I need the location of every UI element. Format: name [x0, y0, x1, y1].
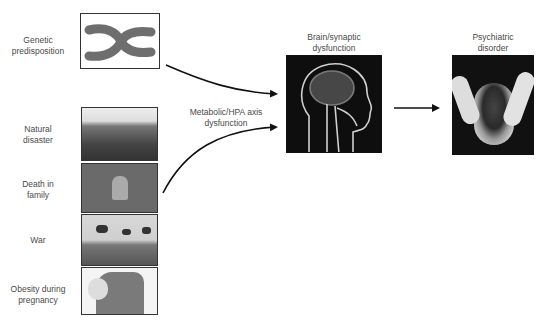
- arrow-genetic-to-brain: [166, 65, 276, 94]
- arrow-environment-to-brain: [163, 127, 276, 193]
- arrows-layer: [0, 0, 548, 331]
- diagram-canvas: Genetic predisposition Natural disaster …: [0, 0, 548, 331]
